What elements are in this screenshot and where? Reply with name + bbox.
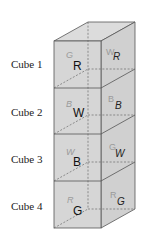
svg-text:W: W (73, 106, 85, 120)
cube-stack-diagram: G R W R B W B B W B G W R G R G (0, 0, 144, 252)
svg-text:W: W (115, 148, 126, 159)
svg-text:R: R (113, 51, 120, 62)
svg-text:B: B (115, 100, 122, 111)
svg-text:G: G (66, 50, 73, 60)
svg-text:R: R (110, 190, 117, 200)
svg-text:G: G (117, 196, 125, 207)
svg-text:B: B (66, 99, 72, 109)
svg-text:B: B (108, 94, 114, 104)
svg-text:B: B (73, 155, 81, 169)
svg-text:R: R (73, 59, 82, 73)
svg-text:G: G (73, 204, 82, 218)
